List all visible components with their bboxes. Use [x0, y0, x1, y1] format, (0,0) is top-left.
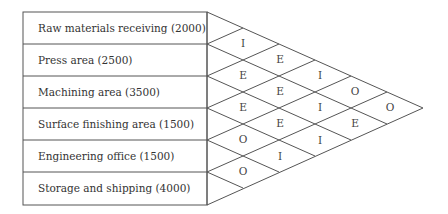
grid-line: [207, 92, 387, 172]
relationship-1-3: E: [276, 53, 284, 65]
relationship-1-2: I: [241, 37, 245, 49]
relationship-4-5: O: [239, 133, 248, 145]
grid-line: [207, 108, 315, 156]
relationship-3-4: E: [239, 101, 247, 113]
relationship-1-5: O: [351, 85, 360, 97]
relationship-chart: Raw materials receiving (2000) Press are…: [0, 0, 448, 214]
relationship-2-4: E: [276, 85, 284, 97]
relationship-5-6: O: [239, 165, 248, 177]
relationship-1-6: O: [386, 101, 395, 113]
department-label-4: Surface finishing area (1500): [38, 118, 194, 130]
relationship-2-3: E: [239, 69, 247, 81]
department-label-6: Storage and shipping (4000): [38, 182, 190, 194]
relationship-4-6: I: [278, 150, 282, 162]
department-label-2: Press area (2500): [38, 54, 132, 66]
department-label-1: Raw materials receiving (2000): [38, 22, 206, 34]
relationship-3-5: E: [276, 117, 284, 129]
department-label-3: Machining area (3500): [38, 86, 160, 98]
grid-line: [207, 172, 243, 188]
grid-line: [207, 28, 243, 44]
grid-line: [207, 60, 315, 108]
relationship-3-6: I: [318, 134, 322, 146]
department-label-5: Engineering office (1500): [38, 150, 174, 162]
relationship-1-4: I: [318, 69, 322, 81]
grid-line: [207, 44, 387, 124]
department-list: Raw materials receiving (2000) Press are…: [23, 12, 207, 205]
relationship-2-6: E: [351, 117, 359, 129]
relationship-2-5: I: [318, 101, 322, 113]
